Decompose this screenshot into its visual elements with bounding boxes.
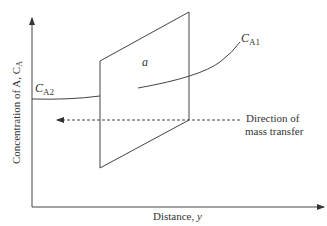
curve-label-a2: CA2 <box>35 81 54 97</box>
x-axis-label: Distance, y <box>153 210 202 222</box>
direction-label-line2: mass transfer <box>245 125 304 137</box>
y-axis-label: Concentration of A, CA <box>10 61 24 164</box>
interface-plane <box>100 12 189 168</box>
curve-label-a1: CA1 <box>241 31 260 47</box>
interface-label: a <box>142 55 148 69</box>
diagram-canvas: CA1 CA2 a Direction of mass transfer Dis… <box>0 0 327 226</box>
direction-label-line1: Direction of <box>246 112 300 124</box>
